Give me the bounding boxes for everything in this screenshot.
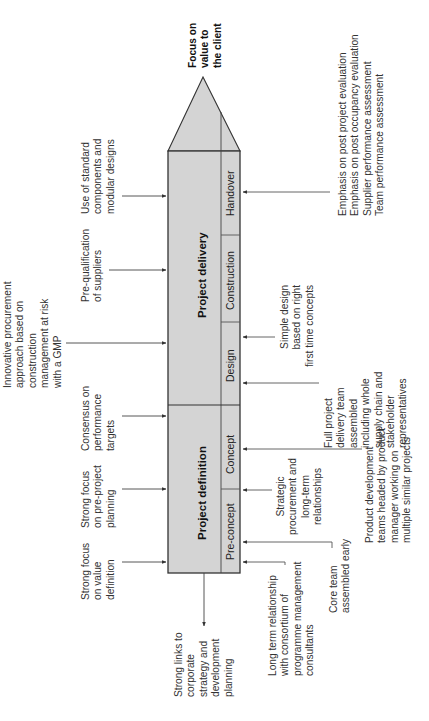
input-label-procurement-approach: Innovative procurement approach based on… xyxy=(2,282,64,388)
input-label-prequalification: Pre-qualification of suppliers xyxy=(80,229,105,302)
input-label-full-delivery-team: Full project delivery team assembled inc… xyxy=(323,372,410,448)
input-label-pre-project-planning: Strong focus on pre-project planning xyxy=(80,465,117,528)
phase-label-project-definition: Project definition xyxy=(196,446,208,540)
input-label-post-evaluation: Emphasis on post project evaluation Emph… xyxy=(337,34,387,216)
input-label-simple-design: Simple design based on right first time … xyxy=(279,285,316,367)
input-label-standard-components: Use of standard components and modular d… xyxy=(80,139,117,214)
stage-label-design: Design xyxy=(224,349,236,382)
input-label-strategic-procurement: Strategic procurement and long-term rela… xyxy=(275,458,325,535)
goal-label: Focus on value to the client xyxy=(187,23,224,68)
output-label-corporate-strategy: Strong links to corporate strategy and d… xyxy=(173,632,235,697)
stage-label-handover: Handover xyxy=(224,170,236,216)
stage-label-concept: Concept xyxy=(224,435,236,474)
diagram-canvas: Focus on value to the client Project def… xyxy=(0,0,429,721)
stage-label-pre-concept: Pre-concept xyxy=(224,503,236,560)
arrow-head xyxy=(168,77,240,151)
input-label-long-term-relationship: Long term relationship with consortium o… xyxy=(267,562,317,676)
stage-label-construction: Construction xyxy=(224,251,236,310)
arrow-core-team xyxy=(243,542,332,548)
input-label-performance-targets: Consensus on performance targets xyxy=(80,386,117,451)
input-label-value-definition: Strong focus on value definition xyxy=(80,543,117,600)
input-label-core-team: Core team assembled early xyxy=(328,539,353,613)
phase-label-project-delivery: Project delivery xyxy=(196,232,208,318)
